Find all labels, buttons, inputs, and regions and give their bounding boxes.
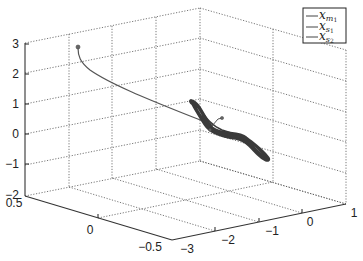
z-tick-labels: 3 2 1 0 −1 −2 xyxy=(5,37,19,202)
svg-text:−2: −2 xyxy=(221,233,235,247)
start-marker xyxy=(76,45,80,49)
svg-text:0.5: 0.5 xyxy=(6,196,23,210)
axes xyxy=(25,43,346,240)
3d-plot: 3 2 1 0 −1 −2 0.5 0 −0.5 −3 −2 −1 0 1 xm… xyxy=(0,0,363,261)
svg-text:0: 0 xyxy=(87,223,94,237)
loop-bundle xyxy=(191,101,269,160)
grid-lines xyxy=(25,8,346,231)
svg-text:0: 0 xyxy=(307,215,314,229)
svg-text:1: 1 xyxy=(351,206,358,220)
end-marker xyxy=(220,116,223,119)
svg-text:1: 1 xyxy=(12,97,19,111)
svg-text:−3: −3 xyxy=(180,242,194,256)
y-tick-labels: 0.5 0 −0.5 xyxy=(6,196,163,254)
svg-text:3: 3 xyxy=(12,37,19,51)
svg-text:2: 2 xyxy=(12,67,19,81)
x-tick-labels: −3 −2 −1 0 1 xyxy=(180,206,358,256)
legend: xm1 xs1 xs2 xyxy=(303,8,346,44)
svg-text:−1: −1 xyxy=(265,224,279,238)
z-ticks xyxy=(25,44,29,164)
svg-text:−1: −1 xyxy=(5,157,19,171)
svg-text:0: 0 xyxy=(12,127,19,141)
trajectory-x-m1 xyxy=(76,45,214,125)
svg-text:−0.5: −0.5 xyxy=(138,240,162,254)
